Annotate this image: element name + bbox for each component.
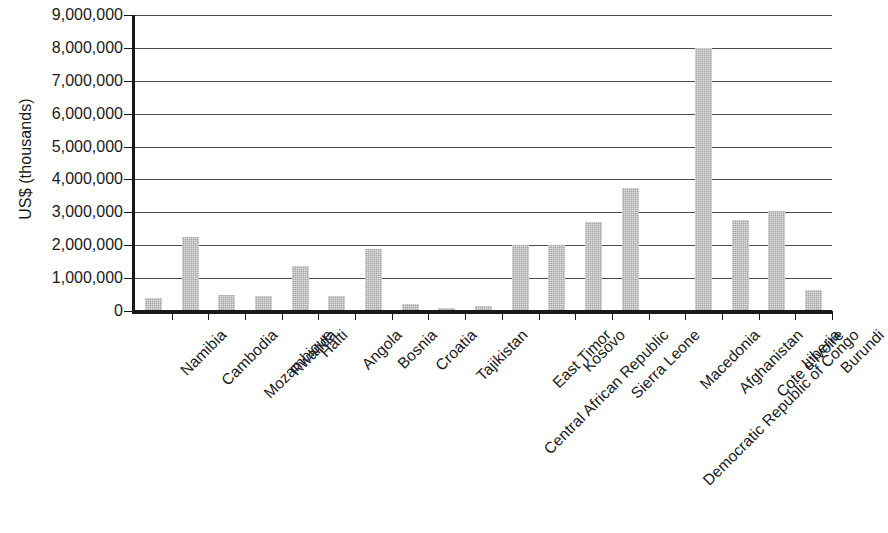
bar xyxy=(732,220,749,311)
y-axis-tick-mark xyxy=(124,179,132,180)
y-axis-tick-mark xyxy=(124,15,132,16)
y-axis-tick-mark xyxy=(124,245,132,246)
y-axis-tick-label: 8,000,000 xyxy=(52,39,132,57)
y-axis-tick-label: 6,000,000 xyxy=(52,105,132,123)
bar xyxy=(292,266,309,311)
x-axis-tick-mark xyxy=(612,311,613,320)
y-axis-line xyxy=(132,15,135,311)
x-axis-tick-mark xyxy=(282,311,283,320)
x-axis-tick-mark xyxy=(502,311,503,320)
bar xyxy=(182,237,199,311)
y-axis-tick-label: 9,000,000 xyxy=(52,6,132,24)
x-axis-tick-mark xyxy=(759,311,760,320)
bar xyxy=(622,188,639,311)
x-axis-tick-mark xyxy=(172,311,173,320)
bar xyxy=(585,222,602,311)
bar xyxy=(218,295,235,311)
x-axis-tick-mark xyxy=(355,311,356,320)
x-axis-tick-label: Croatia xyxy=(432,326,481,375)
x-axis-tick-mark xyxy=(795,311,796,320)
x-axis-tick-mark xyxy=(245,311,246,320)
x-axis-tick-mark xyxy=(832,311,833,320)
plot-area: 01,000,0002,000,0003,000,0004,000,0005,0… xyxy=(132,15,832,311)
bars-layer xyxy=(135,15,832,311)
x-axis-tick-mark xyxy=(208,311,209,320)
y-axis-tick-label: 4,000,000 xyxy=(52,170,132,188)
y-axis-tick-mark xyxy=(124,81,132,82)
bar xyxy=(695,48,712,311)
bar xyxy=(255,296,272,311)
y-axis-tick-label: 7,000,000 xyxy=(52,72,132,90)
bar xyxy=(512,245,529,311)
x-axis-tick-mark xyxy=(722,311,723,320)
bar xyxy=(805,290,822,311)
x-axis-tick-mark xyxy=(575,311,576,320)
y-axis-tick-label: 2,000,000 xyxy=(52,236,132,254)
bar xyxy=(365,249,382,311)
y-axis-tick-mark xyxy=(124,48,132,49)
y-axis-tick-label: 5,000,000 xyxy=(52,138,132,156)
bar xyxy=(548,245,565,311)
x-axis-tick-label: Tajikistan xyxy=(473,326,532,385)
y-axis-tick-mark xyxy=(124,147,132,148)
x-axis-tick-mark xyxy=(392,311,393,320)
x-axis-labels: NamibiaCambodiaMozambiqueRwandaHaitiAngo… xyxy=(132,326,845,531)
x-axis-tick-mark xyxy=(465,311,466,320)
y-axis-tick-label: 3,000,000 xyxy=(52,203,132,221)
x-axis-tick-label: Angola xyxy=(358,326,405,373)
x-axis-tick-mark xyxy=(428,311,429,320)
y-axis-tick-mark xyxy=(124,278,132,279)
bar xyxy=(768,211,785,311)
y-axis-title: US$ (thousands) xyxy=(17,39,35,279)
bar xyxy=(328,296,345,311)
x-axis-tick-mark xyxy=(318,311,319,320)
x-axis-tick-mark xyxy=(649,311,650,320)
y-axis-tick-mark xyxy=(124,212,132,213)
x-axis-tick-mark xyxy=(539,311,540,320)
x-axis-tick-label: Bosnia xyxy=(394,326,441,373)
y-axis-tick-mark xyxy=(124,311,132,312)
x-axis-tick-mark xyxy=(685,311,686,320)
y-axis-tick-label: 1,000,000 xyxy=(52,269,132,287)
x-axis-line xyxy=(132,310,832,314)
y-axis-tick-mark xyxy=(124,114,132,115)
